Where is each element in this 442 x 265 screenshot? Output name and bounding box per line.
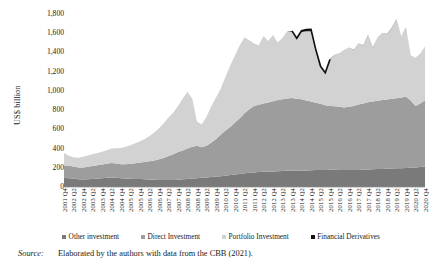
- legend-item-portfolio-investment[interactable]: Portfolio Investment: [222, 233, 289, 241]
- x-tick-label: 2006 Q4: [156, 188, 163, 212]
- x-tick-label: 2014 Q2: [298, 188, 305, 212]
- x-tick-label: 2009 Q4: [213, 188, 220, 212]
- x-tick-label: 2007 Q2: [165, 188, 172, 212]
- legend-swatch-icon: [62, 235, 66, 239]
- x-tick-label: 2002 Q4: [80, 188, 87, 212]
- x-tick-label: 2017 Q2: [355, 188, 362, 212]
- x-tick-label: 2009 Q2: [203, 188, 210, 212]
- x-tick-label: 2008 Q4: [194, 188, 201, 212]
- area-chart-svg: [0, 0, 442, 200]
- x-tick-label: 2004 Q2: [108, 188, 115, 212]
- x-tick-label: 2012 Q2: [260, 188, 267, 212]
- legend-item-financial-derivatives[interactable]: Financial Derivatives: [311, 233, 380, 241]
- x-tick-label: 2011 Q2: [241, 188, 248, 212]
- x-tick-label: 2015 Q4: [327, 188, 334, 212]
- stacked-area-plot: [0, 0, 442, 200]
- x-tick-label: 2013 Q2: [279, 188, 286, 212]
- x-tick-label: 2006 Q2: [146, 188, 153, 212]
- x-tick-label: 2016 Q4: [346, 188, 353, 212]
- x-tick-label: 2015 Q2: [317, 188, 324, 212]
- x-tick-label: 2020 Q2: [412, 188, 419, 212]
- figure-container: US$ billion 02004006008001,0001,2001,400…: [0, 0, 442, 265]
- x-tick-label: 2001 Q4: [61, 188, 68, 212]
- x-tick-label: 2003 Q4: [99, 188, 106, 212]
- source-description: Elaborated by the authors with data from…: [58, 249, 438, 259]
- x-tick-label: 2005 Q2: [127, 188, 134, 212]
- source-note: Source: Elaborated by the authors with d…: [18, 249, 438, 259]
- legend-label: Portfolio Investment: [229, 233, 289, 241]
- x-tick-label: 2008 Q2: [184, 188, 191, 212]
- x-tick-label: 2012 Q4: [270, 188, 277, 212]
- x-tick-label: 2007 Q4: [175, 188, 182, 212]
- legend-item-direct-investment[interactable]: Direct Investment: [141, 233, 200, 241]
- x-tick-label: 2011 Q4: [251, 188, 258, 212]
- x-tick-label: 2019 Q4: [403, 188, 410, 212]
- x-tick-label: 2020 Q4: [422, 188, 429, 212]
- legend-swatch-icon: [222, 235, 226, 239]
- x-tick-label: 2017 Q4: [365, 188, 372, 212]
- legend-label: Direct Investment: [148, 233, 200, 241]
- x-tick-label: 2013 Q4: [289, 188, 296, 212]
- x-tick-label: 2010 Q4: [232, 188, 239, 212]
- x-axis-tick-labels: 2001 Q42002 Q22002 Q42003 Q22003 Q42004 …: [0, 188, 442, 232]
- x-tick-label: 2016 Q2: [336, 188, 343, 212]
- legend-swatch-icon: [311, 235, 315, 239]
- x-tick-label: 2004 Q4: [118, 188, 125, 212]
- legend-label: Other investment: [69, 233, 119, 241]
- x-tick-label: 2010 Q2: [222, 188, 229, 212]
- legend-swatch-icon: [141, 235, 145, 239]
- x-tick-label: 2002 Q2: [70, 188, 77, 212]
- legend-item-other-investment[interactable]: Other investment: [62, 233, 119, 241]
- x-tick-label: 2005 Q4: [137, 188, 144, 212]
- chart-area: US$ billion 02004006008001,0001,2001,400…: [0, 0, 442, 232]
- x-tick-label: 2003 Q2: [89, 188, 96, 212]
- chart-legend: Other investmentDirect InvestmentPortfol…: [0, 230, 442, 243]
- x-tick-label: 2018 Q4: [384, 188, 391, 212]
- x-tick-label: 2018 Q2: [374, 188, 381, 212]
- x-tick-label: 2019 Q2: [393, 188, 400, 212]
- legend-label: Financial Derivatives: [317, 233, 380, 241]
- source-label: Source:: [18, 249, 58, 259]
- x-tick-label: 2014 Q4: [308, 188, 315, 212]
